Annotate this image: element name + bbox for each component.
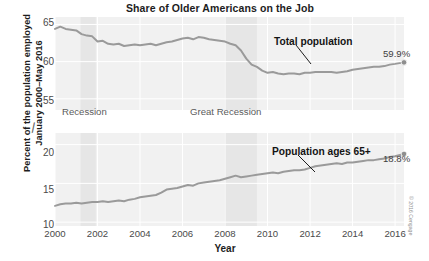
band-label-1: Great Recession bbox=[190, 106, 261, 117]
series-end-dot-total_population bbox=[401, 60, 407, 66]
band-label-0: Recession bbox=[62, 106, 107, 117]
end-label-population_65_plus: 18.8% bbox=[383, 153, 410, 164]
x-tick-2008: 2008 bbox=[205, 228, 245, 239]
x-tick-2004: 2004 bbox=[120, 228, 160, 239]
x-tick-2000: 2000 bbox=[35, 228, 75, 239]
x-tick-2006: 2006 bbox=[163, 228, 203, 239]
x-tick-2014: 2014 bbox=[333, 228, 373, 239]
copyright-credit: © 2016 Cengage bbox=[408, 196, 414, 235]
plot-canvas bbox=[0, 0, 429, 261]
end-label-total_population: 59.9% bbox=[383, 48, 410, 59]
annotation-total_population: Total population bbox=[274, 36, 352, 47]
annotation-population_65_plus: Population ages 65+ bbox=[272, 146, 371, 157]
x-tick-2012: 2012 bbox=[290, 228, 330, 239]
recession-band-0 bbox=[81, 133, 96, 226]
x-tick-2002: 2002 bbox=[78, 228, 118, 239]
recession-band-0 bbox=[81, 17, 96, 110]
recession-band-1 bbox=[224, 17, 257, 110]
x-axis-label: Year bbox=[55, 243, 395, 254]
recession-band-1 bbox=[224, 133, 257, 226]
x-tick-2010: 2010 bbox=[248, 228, 288, 239]
chart-figure: Share of Older Americans on the Job Perc… bbox=[0, 0, 429, 261]
